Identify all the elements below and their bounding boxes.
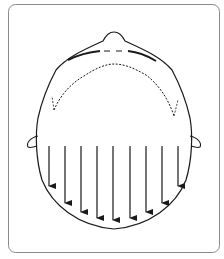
figure-frame [9, 5, 220, 253]
head-diagram [0, 0, 224, 259]
figure-canvas [0, 0, 224, 259]
